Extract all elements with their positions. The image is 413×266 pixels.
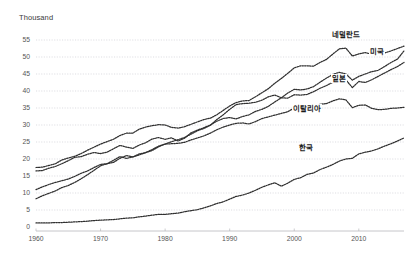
x-axis-tick-label: 1960 bbox=[28, 235, 43, 242]
y-axis-tick-label: 55 bbox=[22, 36, 30, 43]
y-axis-ticks: 0510152025303540455055 bbox=[22, 36, 30, 230]
x-axis-tick-label: 2000 bbox=[287, 235, 302, 242]
gridlines bbox=[36, 40, 404, 210]
y-axis-tick-label: 45 bbox=[22, 70, 30, 77]
y-axis-tick-label: 50 bbox=[22, 53, 30, 60]
y-axis-tick-label: 5 bbox=[26, 206, 30, 213]
y-axis-tick-label: 25 bbox=[22, 138, 30, 145]
x-axis-tick-label: 2010 bbox=[351, 235, 366, 242]
series-label: 이탈리아 bbox=[292, 104, 322, 113]
y-axis-tick-label: 15 bbox=[22, 172, 30, 179]
chart-container: Thousand 0510152025303540455055 19601970… bbox=[0, 0, 413, 266]
x-axis-tick-label: 1970 bbox=[93, 235, 108, 242]
series-label: 미국 bbox=[369, 47, 385, 56]
series-line-netherlands bbox=[36, 46, 404, 167]
x-axis: 196019701980199020002010 bbox=[28, 229, 404, 243]
x-axis-tick-label: 1990 bbox=[222, 235, 237, 242]
y-axis-tick-label: 0 bbox=[26, 223, 30, 230]
series-label: 일본 bbox=[331, 74, 347, 83]
series-label: 한국 bbox=[298, 143, 314, 152]
series-line-japan bbox=[36, 62, 404, 198]
y-axis-tick-label: 20 bbox=[22, 155, 30, 162]
y-axis-tick-label: 10 bbox=[22, 189, 30, 196]
series-line-united-states bbox=[36, 51, 404, 171]
y-axis-tick-label: 35 bbox=[22, 104, 30, 111]
series-lines bbox=[36, 46, 404, 223]
x-axis-tick-label: 1980 bbox=[158, 235, 173, 242]
y-axis-tick-label: 30 bbox=[22, 121, 30, 128]
y-axis-tick-label: 40 bbox=[22, 87, 30, 94]
series-label: 네덜란드 bbox=[331, 30, 361, 39]
line-chart-plot: 0510152025303540455055 19601970198019902… bbox=[0, 0, 413, 266]
